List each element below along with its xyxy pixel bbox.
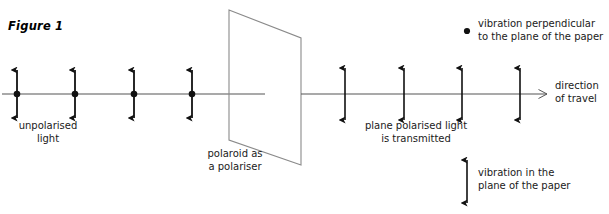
key-dot-icon (464, 28, 470, 34)
unpolarised-vibration-marker (14, 70, 21, 118)
label-unpolarised-light: unpolarised light (2, 120, 94, 145)
vibration-perpendicular-dot (14, 91, 21, 98)
label-key-vibration-in-plane: vibration in the plane of the paper (478, 167, 609, 192)
figure-caption: Figure 1 (8, 20, 63, 33)
vibration-perpendicular-dot (72, 91, 79, 98)
label-polaroid-as-polariser: polaroid as a polariser (185, 148, 285, 173)
figure-polarisation-diagram: Figure 1 unpolarised light polaroid as a… (0, 0, 609, 214)
polaroid-sheet (229, 10, 301, 165)
unpolarised-vibration-marker (189, 70, 196, 118)
unpolarised-vibration-marker (131, 70, 138, 118)
label-plane-polarised-light: plane polarised light is transmitted (355, 120, 477, 145)
vibration-perpendicular-dot (131, 91, 138, 98)
vibration-perpendicular-dot (189, 91, 196, 98)
label-direction-of-travel: direction of travel (555, 80, 609, 105)
label-key-vibration-perpendicular: vibration perpendicular to the plane of … (478, 18, 609, 43)
outgoing-ray-group (301, 68, 547, 120)
incoming-ray-group (2, 70, 265, 118)
unpolarised-vibration-marker (72, 70, 79, 118)
